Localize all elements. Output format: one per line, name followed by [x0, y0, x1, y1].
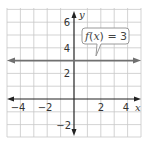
- x-tick-2: 2: [98, 102, 104, 113]
- y-axis-up-arrow-icon: [72, 11, 77, 18]
- coordinate-plane: −4 −2 2 4 x 6 4 2 −2 y f(x) = 3: [0, 0, 146, 144]
- y-tick-2: 2: [64, 68, 70, 79]
- callout-text: f(x) = 3: [84, 30, 127, 43]
- x-tick-4: 4: [123, 102, 129, 113]
- function-left-arrow-icon: [7, 58, 15, 64]
- y-axis-down-arrow-icon: [72, 129, 77, 136]
- y-tick-6: 6: [64, 17, 70, 28]
- y-tick-4: 4: [64, 43, 70, 54]
- x-tick-neg2: −2: [38, 102, 53, 113]
- y-axis-label: y: [78, 9, 85, 20]
- x-axis-left-arrow-icon: [7, 97, 14, 102]
- x-tick-neg4: −4: [11, 102, 26, 113]
- y-tick-neg2: −2: [56, 120, 71, 131]
- function-right-arrow-icon: [133, 58, 141, 64]
- x-axis-right-arrow-icon: [134, 97, 141, 102]
- function-callout: f(x) = 3: [82, 28, 129, 56]
- x-axis-label: x: [135, 102, 141, 113]
